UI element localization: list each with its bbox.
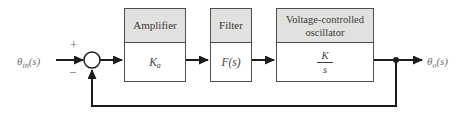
vco-title-line2: oscillator — [305, 26, 344, 39]
vco-title-line1: Voltage-controlled — [286, 13, 364, 26]
vco-fraction: K s — [317, 50, 332, 75]
amplifier-gain-symbol: K — [149, 56, 157, 68]
summing-junction — [84, 52, 100, 68]
filter-block: Filter F(s) — [210, 8, 252, 82]
vco-block: Voltage-controlled oscillator K s — [276, 8, 374, 82]
amplifier-gain: Ka — [125, 43, 185, 81]
vco-tf-denominator: s — [323, 63, 327, 75]
amplifier-title: Amplifier — [125, 9, 185, 43]
filter-tf-symbol: F — [221, 56, 228, 68]
filter-tf-suffix: (s) — [228, 56, 240, 68]
output-signal-label: θo(s) — [427, 53, 448, 69]
output-subscript: o — [432, 61, 436, 70]
input-suffix: (s) — [29, 55, 41, 67]
filter-transfer-function: F(s) — [211, 43, 251, 81]
minus-sign: − — [69, 66, 76, 79]
vco-title: Voltage-controlled oscillator — [277, 9, 373, 43]
amplifier-gain-subscript: a — [157, 61, 161, 70]
amplifier-block: Amplifier Ka — [124, 8, 186, 82]
input-subscript: in — [22, 61, 28, 70]
plus-sign: + — [70, 38, 77, 51]
vco-tf-numerator: K — [317, 50, 332, 63]
block-diagram: θin(s) + − Amplifier Ka Filter F(s) Volt… — [0, 0, 464, 118]
output-suffix: (s) — [436, 55, 448, 67]
input-signal-label: θin(s) — [17, 53, 40, 69]
vco-transfer-function: K s — [277, 43, 373, 81]
filter-title: Filter — [211, 9, 251, 43]
